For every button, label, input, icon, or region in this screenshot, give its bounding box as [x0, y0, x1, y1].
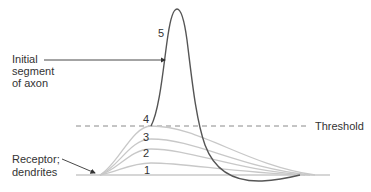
curve-label-4: 4: [143, 113, 149, 125]
initial-segment-label-line1: Initial: [12, 53, 38, 65]
curve-label-1: 1: [144, 164, 150, 176]
receptor-label-line2: dendrites: [12, 166, 58, 178]
receptor-label-line1: Receptor;: [12, 153, 60, 165]
curve-label-2: 2: [143, 147, 149, 159]
curve-label-3: 3: [143, 131, 149, 143]
initial-segment-label-line2: segment: [12, 65, 54, 77]
potential-diagram: 5 4 3 2 1 Initial segment of axon Recept…: [0, 0, 371, 192]
initial-segment-label-line3: of axon: [12, 77, 48, 89]
threshold-label: Threshold: [315, 120, 364, 132]
curve-label-5: 5: [158, 27, 164, 39]
graded-potential-2: [100, 149, 305, 175]
receptor-arrow-icon: [62, 159, 95, 173]
